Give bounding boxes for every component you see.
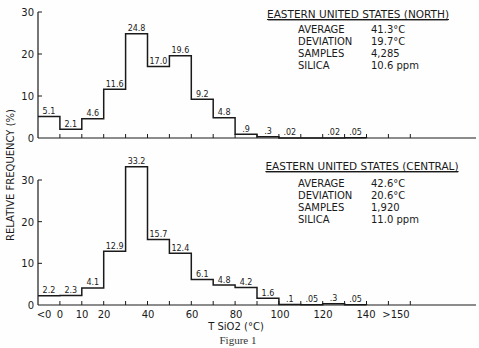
stat-label: SAMPLES xyxy=(298,48,344,59)
stat-value: 1,920 xyxy=(371,202,400,213)
x-tick-label: <0 xyxy=(37,309,52,320)
x-tick-label: 100 xyxy=(270,309,289,320)
y-tick-label: 20 xyxy=(21,217,34,228)
stat-value: 41.3°C xyxy=(371,24,405,35)
panel-north: 01020305.12.14.611.624.817.019.69.24.8.9… xyxy=(21,7,476,144)
stat-label: AVERAGE xyxy=(298,178,345,189)
bar-value-label: 12.4 xyxy=(171,244,189,253)
bar-value-label: 4.1 xyxy=(86,278,99,287)
stat-value: 19.7°C xyxy=(371,36,405,47)
bar-value-label: 11.6 xyxy=(106,80,124,89)
bar-value-label: 4.8 xyxy=(218,108,231,117)
bar-value-label: .3 xyxy=(264,127,272,136)
x-tick-label: >150 xyxy=(382,309,409,320)
x-axis-label: T SiO2 (°C) xyxy=(207,321,264,332)
bar-value-label: .02 xyxy=(327,128,340,137)
bar-value-label: 4.6 xyxy=(86,109,99,118)
y-tick-label: 20 xyxy=(21,49,34,60)
bar-value-label: 19.6 xyxy=(171,46,189,55)
bar-value-label: .3 xyxy=(330,294,338,303)
stat-value: 4,285 xyxy=(371,48,400,59)
figure-caption: Figure 1 xyxy=(220,334,257,346)
x-tick-label: 60 xyxy=(186,309,199,320)
panel-central: 01020302.22.34.112.933.215.712.46.14.84.… xyxy=(21,157,476,311)
bar-value-label: .05 xyxy=(349,128,362,137)
y-tick-label: 30 xyxy=(21,175,34,186)
y-tick-label: 10 xyxy=(21,91,34,102)
bar-value-label: 4.2 xyxy=(240,278,253,287)
x-tick-label: 40 xyxy=(142,309,155,320)
x-tick-label: 20 xyxy=(98,309,111,320)
x-tick-label: 120 xyxy=(313,309,332,320)
stat-label: SILICA xyxy=(298,214,330,225)
bar-value-label: .02 xyxy=(283,128,296,137)
x-tick-label: 0 xyxy=(57,309,63,320)
bar-value-label: 24.8 xyxy=(128,24,146,33)
x-tick-label: 10 xyxy=(76,309,89,320)
stat-label: AVERAGE xyxy=(298,24,345,35)
panel-title: EASTERN UNITED STATES (NORTH) xyxy=(267,8,449,20)
stat-value: 42.6°C xyxy=(371,178,405,189)
bar-value-label: 33.2 xyxy=(128,157,146,166)
bar-value-label: 17.0 xyxy=(150,57,168,66)
x-tick-labels: <001020406080100120140>150 xyxy=(37,309,410,320)
y-tick-label: 30 xyxy=(21,7,34,18)
y-tick-label: 0 xyxy=(28,133,34,144)
y-axis-label: RELATIVE FREQUENCY (%) xyxy=(5,109,16,241)
y-tick-label: 10 xyxy=(21,258,34,269)
bar-value-label: 6.1 xyxy=(196,270,209,279)
x-tick-label: 140 xyxy=(356,309,375,320)
stat-label: SILICA xyxy=(298,60,330,71)
panel-title: EASTERN UNITED STATES (CENTRAL) xyxy=(265,160,458,172)
bar-value-label: .9 xyxy=(242,125,250,134)
histogram-figure: RELATIVE FREQUENCY (%) 01020305.12.14.61… xyxy=(0,0,479,348)
bar-value-label: 15.7 xyxy=(150,230,168,239)
stat-value: 10.6 ppm xyxy=(371,60,419,71)
bar-value-label: 4.8 xyxy=(218,276,231,285)
stat-value: 20.6°C xyxy=(371,190,405,201)
bar-value-label: 2.1 xyxy=(64,120,77,129)
stat-label: DEVIATION xyxy=(298,190,352,201)
stat-value: 11.0 ppm xyxy=(371,214,419,225)
bar-value-label: .05 xyxy=(305,295,318,304)
bar-value-label: .1 xyxy=(286,295,294,304)
bar-value-label: 2.2 xyxy=(43,286,56,295)
bar-value-label: 5.1 xyxy=(43,107,56,116)
y-tick-label: 0 xyxy=(28,300,34,311)
bar-value-label: 12.9 xyxy=(106,242,124,251)
stat-label: DEVIATION xyxy=(298,36,352,47)
bar-value-label: 2.3 xyxy=(64,286,77,295)
stat-label: SAMPLES xyxy=(298,202,344,213)
x-tick-label: 80 xyxy=(230,309,243,320)
bar-value-label: 1.6 xyxy=(262,289,275,298)
bar-value-label: 9.2 xyxy=(196,90,209,99)
bar-value-label: .05 xyxy=(349,295,362,304)
